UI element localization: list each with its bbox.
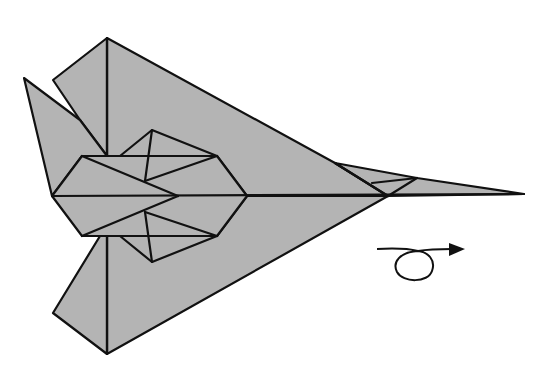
airplane-fold-illustration xyxy=(0,0,556,383)
origami-diagram: Turn over. xyxy=(0,0,556,383)
turn-over-icon xyxy=(377,243,465,280)
lower-flap xyxy=(53,236,107,354)
